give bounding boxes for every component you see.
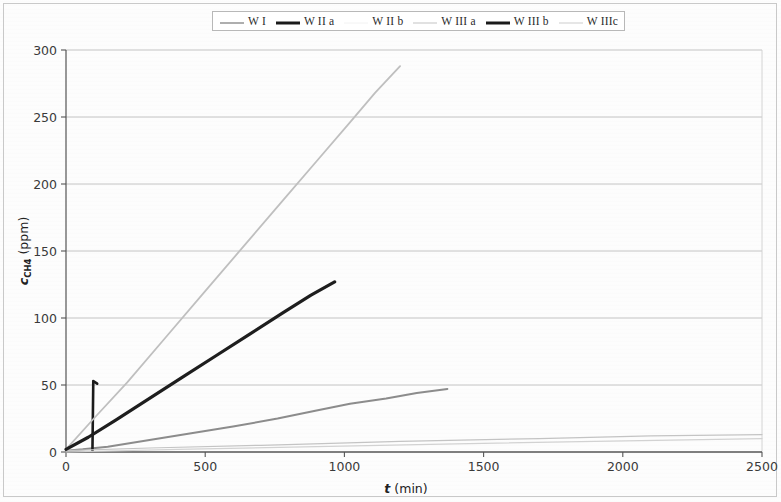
x-axis-tick-label: 2000 (607, 459, 639, 474)
data-series-line (66, 66, 400, 449)
y-axis-title-subscript: CH4 (23, 258, 33, 277)
x-axis-title: t(min) (384, 481, 427, 496)
y-axis-title: cCH4(ppm) (16, 217, 33, 286)
y-axis-tick-label: 200 (33, 177, 57, 192)
y-axis-title-unit: (ppm) (16, 217, 31, 255)
y-axis-tick-label: 150 (33, 244, 57, 259)
y-axis-tick-label: 50 (41, 378, 57, 393)
chart-svg: 05010015020025030005001000150020002500t(… (0, 0, 781, 502)
x-axis-tick-label: 0 (62, 459, 70, 474)
x-axis-tick-label: 2500 (746, 459, 778, 474)
x-axis-tick-label: 500 (193, 459, 217, 474)
x-axis-title-var: t (384, 481, 391, 496)
y-axis-tick-label: 100 (33, 311, 57, 326)
x-axis-tick-label: 1000 (328, 459, 360, 474)
x-axis-tick-label: 1500 (468, 459, 500, 474)
y-axis-tick-label: 300 (33, 43, 57, 58)
x-axis-title-unit: (min) (394, 481, 427, 496)
y-axis-title-text: cCH4(ppm) (16, 217, 33, 286)
y-axis-tick-label: 0 (49, 445, 57, 460)
chart-plot-area: 05010015020025030005001000150020002500t(… (0, 0, 781, 502)
data-series-line (66, 282, 335, 450)
y-axis-tick-label: 250 (33, 110, 57, 125)
